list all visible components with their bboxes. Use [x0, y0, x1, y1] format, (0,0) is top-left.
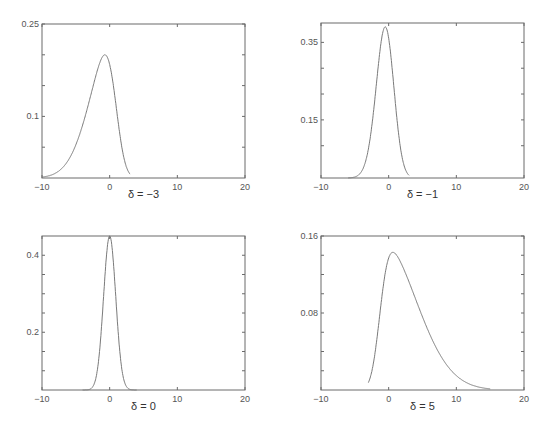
x-tick-label: 0: [107, 394, 112, 404]
x-tick-label: 20: [519, 394, 529, 404]
panel-caption: δ = 5: [410, 400, 435, 412]
y-tick-label: 0.08: [300, 308, 318, 318]
x-tick-label: −10: [313, 394, 328, 404]
x-tick-label: −10: [34, 182, 49, 192]
y-tick-label: 0.2: [26, 327, 39, 337]
y-tick-label: 0.1: [26, 111, 39, 121]
density-curve: [348, 27, 409, 178]
x-tick-label: −10: [34, 394, 49, 404]
plot-frame: [321, 236, 524, 390]
density-curve: [368, 252, 490, 389]
x-tick-label: 10: [451, 182, 461, 192]
y-tick-label: 0.15: [300, 115, 318, 125]
plot-frame: [42, 24, 245, 178]
y-tick-label: 0.4: [26, 250, 39, 260]
x-tick-label: 10: [451, 394, 461, 404]
x-tick-label: 0: [386, 182, 391, 192]
plot-frame: [321, 23, 524, 178]
y-tick-label: 0.25: [21, 19, 39, 29]
x-tick-label: 10: [172, 394, 182, 404]
plot-frame: [42, 236, 245, 390]
panel-caption: δ = −1: [407, 188, 438, 200]
x-tick-label: 20: [240, 182, 250, 192]
density-curve: [83, 236, 137, 390]
panel-caption: δ = −3: [128, 188, 159, 200]
x-tick-label: 20: [240, 394, 250, 404]
chart-figure: −10010200.10.25δ = −3−10010200.350.15δ =…: [0, 0, 554, 424]
x-tick-label: −10: [313, 182, 328, 192]
panel-caption: δ = 0: [131, 400, 156, 412]
x-tick-label: 0: [386, 394, 391, 404]
x-tick-label: 0: [107, 182, 112, 192]
y-tick-label: 0.35: [300, 37, 318, 47]
density-curve: [42, 55, 130, 177]
x-tick-label: 10: [172, 182, 182, 192]
y-tick-label: 0.16: [300, 231, 318, 241]
x-tick-label: 20: [519, 182, 529, 192]
